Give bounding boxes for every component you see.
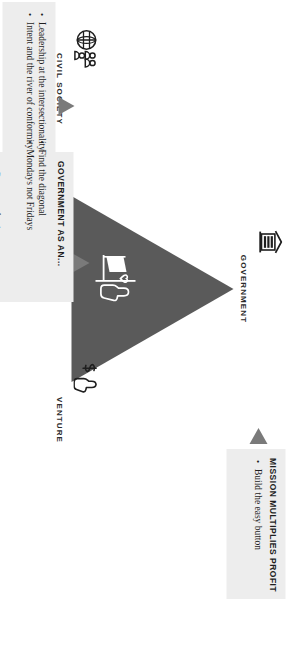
- list-item: Leadership at the intersectionality: [35, 22, 47, 136]
- vertex-government-label: GOVERNMENT: [238, 255, 247, 323]
- callout-civil-society-list: Leadership at the intersectionality Inte…: [22, 11, 47, 263]
- callout-venture-title: Mission multiplies profit: [267, 458, 277, 590]
- globe-people-icon: [73, 29, 99, 149]
- callout-venture-list: Build the easy button: [251, 458, 263, 590]
- vertex-civil-society[interactable]: CIVIL SOCIETY: [52, 29, 99, 149]
- list-item: Find the diagonal: [35, 150, 47, 264]
- vertex-government[interactable]: GOVERNMENT: [236, 229, 283, 349]
- callout-venture-pointer: [249, 428, 267, 444]
- callout-government-title: Government as an...: [55, 161, 65, 293]
- list-item: Build the easy button: [251, 469, 263, 590]
- list-item: Procurer of value: [0, 172, 1, 293]
- vertex-venture-label: VENTURE: [54, 397, 63, 443]
- callout-civil-society[interactable]: Leadership at the intersectionality Inte…: [2, 2, 55, 272]
- callout-civil-society-pointer: [58, 97, 74, 115]
- hand-dollar-icon: [73, 360, 99, 480]
- callout-venture[interactable]: Mission multiplies profit Build the easy…: [226, 449, 285, 599]
- callout-government-pointer: [73, 254, 89, 272]
- vertex-venture[interactable]: VENTURE: [52, 360, 99, 480]
- diagram-canvas: GOVERNMENT VENTURE: [0, 0, 295, 658]
- classical-building-icon: [257, 229, 283, 349]
- list-item: Intent and the river of conformity: [22, 22, 34, 136]
- flag-heart-hand-icon: [93, 252, 137, 310]
- list-item: Mondays not Fridays: [22, 150, 34, 264]
